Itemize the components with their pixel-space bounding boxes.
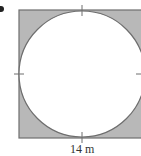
partial-label-dot bbox=[0, 6, 4, 12]
inscribed-circle bbox=[19, 11, 141, 137]
side-length-label: 14 m bbox=[70, 142, 94, 156]
figure-canvas bbox=[0, 0, 141, 156]
